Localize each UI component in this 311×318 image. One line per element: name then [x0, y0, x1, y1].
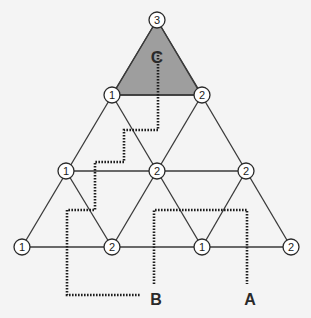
label-c: C: [151, 48, 163, 67]
node-r4-3: 1: [194, 239, 210, 255]
triangle-grid-diagram: 3 1 2 1 2 2 1 2 1 2 C B A: [0, 0, 311, 318]
svg-text:2: 2: [199, 89, 205, 101]
node-r4-4: 2: [283, 239, 299, 255]
svg-text:1: 1: [109, 89, 115, 101]
svg-text:1: 1: [63, 165, 69, 177]
node-r3-mid: 2: [149, 163, 165, 179]
label-a: A: [244, 291, 256, 308]
label-b: B: [150, 291, 162, 308]
node-r4-1: 1: [14, 239, 30, 255]
svg-text:2: 2: [288, 241, 294, 253]
node-r3-left: 1: [58, 163, 74, 179]
svg-text:2: 2: [109, 241, 115, 253]
node-r3-right: 2: [238, 163, 254, 179]
svg-text:1: 1: [19, 241, 25, 253]
svg-text:1: 1: [199, 241, 205, 253]
svg-text:2: 2: [154, 165, 160, 177]
svg-text:3: 3: [154, 14, 160, 26]
node-r4-2: 2: [104, 239, 120, 255]
node-r2-left: 1: [104, 87, 120, 103]
node-r2-right: 2: [194, 87, 210, 103]
svg-text:2: 2: [243, 165, 249, 177]
node-top: 3: [149, 12, 165, 28]
